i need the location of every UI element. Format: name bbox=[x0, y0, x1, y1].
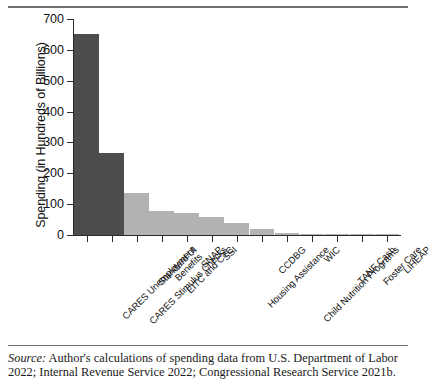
bar bbox=[124, 193, 149, 235]
bar bbox=[74, 34, 99, 235]
x-tick bbox=[212, 236, 213, 242]
bar bbox=[275, 233, 300, 235]
bar bbox=[224, 223, 249, 235]
bar bbox=[149, 211, 174, 235]
y-tick-label: 200 bbox=[4, 166, 64, 180]
y-tick-label: 600 bbox=[4, 43, 64, 57]
source-rule bbox=[8, 345, 408, 346]
x-tick bbox=[237, 236, 238, 242]
x-tick bbox=[162, 236, 163, 242]
bar bbox=[375, 234, 400, 235]
bar-series bbox=[74, 10, 400, 235]
y-tick bbox=[67, 142, 73, 143]
bar bbox=[300, 234, 325, 235]
x-tick bbox=[337, 236, 338, 242]
x-tick bbox=[137, 236, 138, 242]
x-tick bbox=[287, 236, 288, 242]
y-tick-label: 500 bbox=[4, 74, 64, 88]
bar bbox=[199, 217, 224, 235]
x-tick bbox=[362, 236, 363, 242]
y-tick-label: 700 bbox=[4, 12, 64, 26]
source-note: Source: Author's calculations of spendin… bbox=[8, 352, 412, 379]
bar-chart-figure: Spending (in Hundreds of Billions) 01002… bbox=[0, 10, 416, 340]
y-tick-label: 400 bbox=[4, 105, 64, 119]
source-label: Source: bbox=[8, 351, 46, 365]
y-tick bbox=[67, 50, 73, 51]
bar bbox=[325, 234, 350, 235]
y-tick bbox=[67, 173, 73, 174]
x-tick bbox=[112, 236, 113, 242]
y-tick-label: 0 bbox=[4, 228, 64, 242]
x-tick bbox=[312, 236, 313, 242]
y-tick bbox=[67, 204, 73, 205]
x-tick bbox=[87, 236, 88, 242]
x-tick bbox=[187, 236, 188, 242]
source-body: Author's calculations of spending data f… bbox=[8, 351, 398, 379]
y-tick-label: 100 bbox=[4, 197, 64, 211]
bar bbox=[250, 229, 275, 235]
bar bbox=[99, 153, 124, 235]
figure-top-rule bbox=[8, 6, 408, 8]
y-tick bbox=[67, 235, 73, 236]
y-tick bbox=[67, 19, 73, 20]
x-tick bbox=[387, 236, 388, 242]
y-tick bbox=[67, 112, 73, 113]
x-tick bbox=[262, 236, 263, 242]
y-tick-label: 300 bbox=[4, 135, 64, 149]
bar bbox=[350, 234, 375, 235]
bar bbox=[174, 213, 199, 235]
plot-area bbox=[74, 10, 400, 235]
y-tick bbox=[67, 81, 73, 82]
